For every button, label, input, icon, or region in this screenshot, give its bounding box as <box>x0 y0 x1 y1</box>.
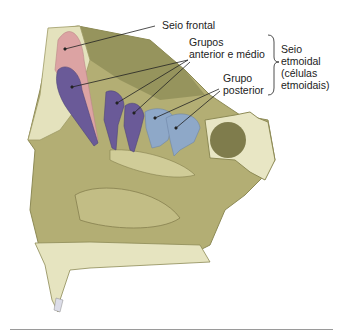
bottom-divider <box>10 329 333 330</box>
label-ethmoid-line3: (células <box>281 67 317 79</box>
label-ethmoid-line1: Seio <box>281 43 302 55</box>
label-posterior-line1: Grupo <box>223 72 252 84</box>
label-anterior-middle-line2: anterior e médio <box>189 48 265 60</box>
label-ethmoid-line4: etmoidais) <box>281 79 329 91</box>
ethmoid-bracket <box>268 35 279 95</box>
label-frontal-sinus: Seio frontal <box>162 19 215 31</box>
sphenoid-cavity <box>210 122 246 158</box>
label-posterior-line2: posterior <box>223 84 264 96</box>
label-ethmoid-line2: etmoidal <box>281 55 321 67</box>
label-anterior-middle-line1: Grupos <box>189 36 223 48</box>
